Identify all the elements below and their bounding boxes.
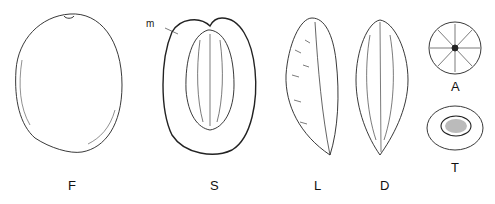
panel-label-a: A [451,79,460,94]
panel-label-t: T [451,160,459,175]
panel-label-s: S [210,178,219,193]
panel-label-l: L [314,178,321,193]
panel-label-d: D [380,178,389,193]
seed-dorsal-drawing [356,20,408,155]
seed-apical-drawing [429,22,481,74]
botanical-illustration [0,0,495,204]
fruit-whole-drawing [16,14,122,152]
fruit-section-drawing [163,18,256,154]
seed-lateral-drawing [286,18,338,155]
panel-label-f: F [68,178,76,193]
seed-transverse-drawing [427,106,483,150]
mesocarp-callout-label: m [146,18,154,29]
